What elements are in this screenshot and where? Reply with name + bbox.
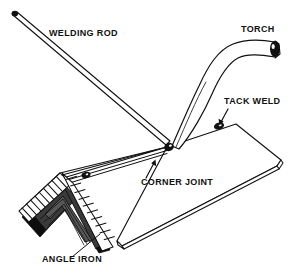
welding-diagram-figure: WELDING ROD TORCH TACK WELD CORNER JOINT…	[0, 0, 292, 275]
label-corner-joint: CORNER JOINT	[141, 177, 213, 187]
label-torch: TORCH	[241, 24, 275, 34]
leader-tack-weld	[221, 109, 228, 122]
corner-joint-seam	[62, 147, 167, 175]
arrowhead-corner-joint	[151, 160, 156, 167]
label-tack-weld: TACK WELD	[224, 96, 281, 106]
diagram-canvas: WELDING ROD TORCH TACK WELD CORNER JOINT…	[0, 0, 292, 275]
label-angle-iron: ANGLE IRON	[42, 254, 102, 264]
corner-joint-line	[62, 147, 167, 175]
label-welding-rod: WELDING ROD	[49, 28, 118, 38]
torch-nozzle-hilite	[272, 44, 275, 49]
welding-rod-tip	[12, 11, 19, 17]
